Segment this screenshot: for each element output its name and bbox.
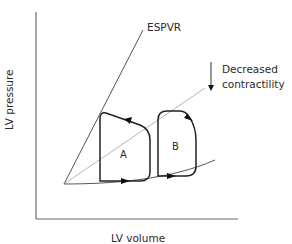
- annotation-line2: contractility: [222, 79, 285, 90]
- pv-loop-diagram: ESPVR Decreased contractility A B LV vol…: [0, 0, 292, 244]
- down-arrow-icon: [208, 85, 214, 91]
- loop-b-label: B: [172, 142, 179, 152]
- loop-a: [100, 113, 150, 181]
- annotation-line1: Decreased: [222, 64, 278, 75]
- loop-a-label: A: [120, 150, 127, 160]
- shifted-espvr-line: [64, 88, 205, 184]
- espvr-label: ESPVR: [147, 22, 181, 33]
- loop-a-bottom-arrow-icon: [121, 178, 130, 184]
- x-axis-label: LV volume: [111, 233, 165, 244]
- y-axis-label: LV pressure: [4, 69, 15, 130]
- espvr-line: [64, 30, 143, 184]
- axes: [36, 12, 238, 219]
